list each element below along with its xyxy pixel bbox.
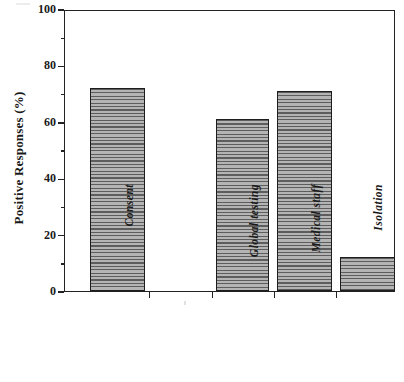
x-tick-3 (274, 292, 275, 298)
y-tick-label-20: 20 (44, 228, 56, 242)
bar-medical-staff[interactable] (277, 91, 332, 291)
x-label-global-testing: Global testing (248, 184, 260, 304)
x-label-isolation: Isolation (372, 184, 384, 304)
x-tick-4 (336, 292, 337, 298)
scan-artifact-top (16, 3, 30, 5)
y-tick-label-100: 100 (38, 2, 56, 16)
y-axis-title: Positive Responses (%) (11, 43, 27, 273)
y-tick-label-40: 40 (44, 171, 56, 185)
y-tick-label-0: 0 (50, 284, 56, 298)
scan-artifact-dot (184, 301, 186, 305)
bar-isolation[interactable] (340, 257, 395, 291)
plot-area (64, 10, 395, 292)
x-tick-1 (149, 292, 150, 298)
y-tick-label-80: 80 (44, 58, 56, 72)
bar-consent[interactable] (90, 88, 145, 291)
bar-chart-figure: Positive Responses (%) 100 80 60 40 20 0 (0, 0, 404, 382)
x-label-medical-staff: Medical staff (310, 184, 322, 304)
x-label-consent: Consent (123, 184, 135, 304)
bar-global-testing[interactable] (216, 119, 269, 291)
y-tick-label-60: 60 (44, 115, 56, 129)
x-tick-2 (212, 292, 213, 298)
